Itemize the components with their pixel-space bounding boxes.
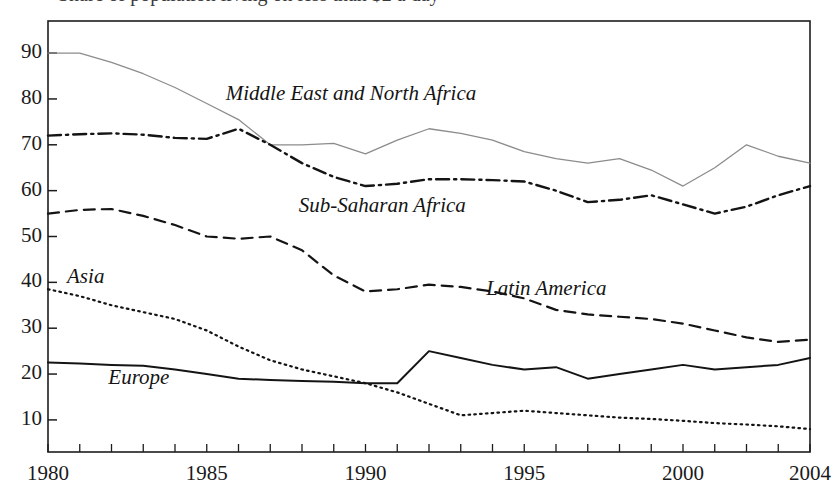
x-axis-tick-label: 1980 bbox=[13, 461, 83, 486]
x-axis-tick-label: 1995 bbox=[489, 461, 559, 486]
y-axis-tick-label: 80 bbox=[2, 85, 42, 110]
series-label: Latin America bbox=[486, 276, 606, 301]
axis-ticks bbox=[48, 53, 810, 452]
y-axis-tick-label: 30 bbox=[2, 314, 42, 339]
y-axis-tick-label: 70 bbox=[2, 131, 42, 156]
y-axis-tick-label: 60 bbox=[2, 177, 42, 202]
y-axis-tick-label: 90 bbox=[2, 39, 42, 64]
x-axis-tick-label: 2004 bbox=[775, 461, 833, 486]
series-label: Sub-Saharan Africa bbox=[299, 193, 466, 218]
series-line bbox=[48, 289, 810, 429]
series-label: Asia bbox=[67, 264, 104, 289]
series-line bbox=[48, 53, 810, 186]
series-label: Europe bbox=[108, 365, 169, 390]
x-axis-tick-label: 2000 bbox=[648, 461, 718, 486]
y-axis-tick-label: 40 bbox=[2, 268, 42, 293]
y-axis-tick-label: 50 bbox=[2, 223, 42, 248]
y-axis-tick-label: 10 bbox=[2, 406, 42, 431]
x-axis-tick-label: 1985 bbox=[172, 461, 242, 486]
series-label: Middle East and North Africa bbox=[226, 81, 476, 106]
series-line bbox=[48, 209, 810, 342]
y-axis-tick-label: 20 bbox=[2, 360, 42, 385]
x-axis-tick-label: 1990 bbox=[331, 461, 401, 486]
line-chart bbox=[0, 0, 833, 499]
